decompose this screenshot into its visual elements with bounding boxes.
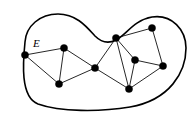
vertex-upper-left xyxy=(60,44,67,51)
vertex-inner-right xyxy=(131,56,138,63)
vertex-left xyxy=(21,51,28,58)
graph-figure: E xyxy=(0,0,193,116)
vertex-bottom-right xyxy=(125,85,132,92)
vertex-upper-mid xyxy=(112,34,119,41)
edge-label-E: E xyxy=(32,37,40,49)
vertex-center xyxy=(91,64,98,71)
figure-container: E xyxy=(0,0,193,116)
vertex-far-right xyxy=(159,62,166,69)
vertex-lower-left xyxy=(55,80,62,87)
vertex-top-right xyxy=(148,24,155,31)
